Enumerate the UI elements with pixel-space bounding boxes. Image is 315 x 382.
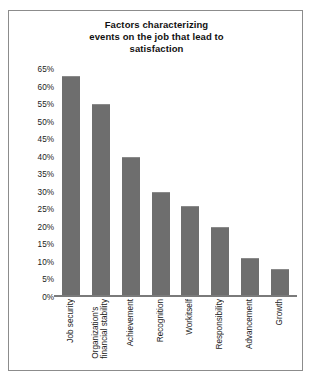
x-axis-tick-label-line: Workitself [185,299,194,335]
x-axis-tick-label-line: Achievement [126,299,135,346]
x-axis-tick-label: Organization'sfinancial stability [91,299,111,359]
x-axis-tick-label-line: financial stability [100,299,109,359]
y-axis-tick-label: 50% [23,117,54,126]
x-axis-tick-label: Recognition [156,299,166,342]
bar [241,258,259,297]
x-axis-tick-label: Growth [275,299,285,325]
bar [62,76,80,297]
plot-area [56,69,295,297]
x-axis-tick-label: Achievement [126,299,136,346]
x-axis-tick-labels: Job securityOrganization'sfinancial stab… [56,299,295,382]
bar [122,157,140,297]
x-axis-tick-label: Job security [66,299,76,343]
x-axis-tick-label-line: Growth [275,299,284,325]
x-axis-tick-label-line: Organization's [91,299,100,359]
chart-frame: Factors characterizing events on the job… [8,10,303,371]
x-axis-tick-label-line: Advancement [245,299,254,349]
chart-title-line-3: satisfaction [23,43,290,55]
x-axis-tick-label-line: Recognition [156,299,165,342]
x-axis-line [54,295,297,297]
x-axis-tick-label: Advancement [245,299,255,349]
y-axis-tick-label: 55% [23,100,54,109]
x-axis-tick-label: Responsibility [215,299,225,350]
chart-title: Factors characterizing events on the job… [23,19,290,56]
bar [271,269,289,297]
y-axis-tick-label: 15% [23,240,54,249]
y-axis-tick-labels: 0%5%10%15%20%25%30%35%40%45%50%55%60%65% [23,69,54,299]
x-axis-tick-label-line: Responsibility [215,299,224,350]
y-axis-tick-label: 25% [23,205,54,214]
x-axis-tick-label: Workitself [185,299,195,335]
y-axis-tick-label: 5% [23,275,54,284]
y-axis-tick-label: 0% [23,293,54,302]
y-axis-tick-label: 60% [23,82,54,91]
y-axis-tick-label: 30% [23,187,54,196]
bar [152,192,170,297]
chart-title-line-1: Factors characterizing [23,19,290,31]
bar [211,227,229,297]
y-axis-tick-label: 35% [23,170,54,179]
bar [181,206,199,297]
y-axis-tick-label: 10% [23,257,54,266]
y-axis-tick-label: 20% [23,222,54,231]
y-axis-tick-label: 65% [23,65,54,74]
y-axis-tick-label: 45% [23,135,54,144]
bar [92,104,110,297]
y-axis-tick-label: 40% [23,152,54,161]
chart-title-line-2: events on the job that lead to [23,31,290,43]
x-axis-tick-label-line: Job security [66,299,75,343]
